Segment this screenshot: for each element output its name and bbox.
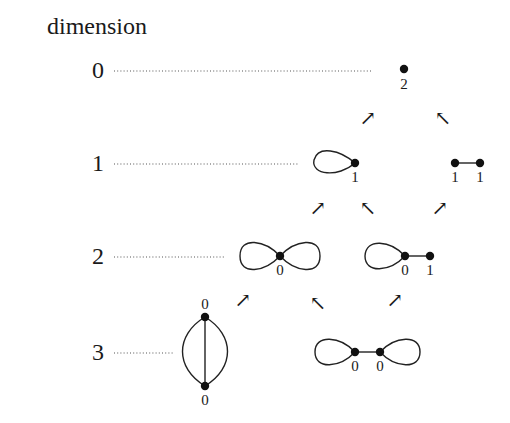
vertex-label: 2	[400, 76, 408, 92]
arrow-up-left-icon: ↖	[310, 292, 327, 314]
graph-single-edge: 1 1	[451, 159, 484, 185]
arc-edge	[205, 317, 228, 386]
row-dimension-3: 3	[92, 339, 173, 365]
vertex	[351, 348, 359, 356]
vertex	[276, 252, 284, 260]
graph-single-loop: 1	[314, 151, 359, 185]
loop-edge	[240, 242, 280, 269]
vertex	[201, 313, 209, 321]
vertex-label: 0	[276, 262, 284, 278]
arrow-up-right-icon: ↗	[310, 197, 327, 219]
vertex	[201, 382, 209, 390]
row-dimension-0: 0	[92, 57, 372, 83]
arrow-up-left-icon: ↖	[360, 197, 377, 219]
vertex-label: 0	[401, 262, 409, 278]
vertex	[376, 348, 384, 356]
loop-edge	[315, 339, 355, 365]
vertex-label: 0	[376, 358, 384, 374]
vertex	[426, 252, 434, 260]
loop-edge	[380, 339, 420, 365]
arrow-up-left-icon: ↖	[435, 107, 452, 129]
graph-figure-eight: 0	[240, 242, 320, 278]
loop-edge	[314, 151, 355, 173]
vertex-label: 0	[201, 392, 209, 408]
vertex-label: 1	[426, 262, 434, 278]
vertex-label: 1	[351, 169, 359, 185]
arrow-up-right-icon: ↗	[387, 289, 404, 311]
arc-edge	[183, 317, 206, 386]
loop-edge	[280, 242, 320, 269]
arrow-up-right-icon: ↗	[360, 107, 377, 129]
row-label: 1	[92, 150, 104, 176]
graph-dumbbell: 0 0	[315, 339, 420, 374]
dimension-stratification-diagram: dimension 0 1 2 3 2 ↗ ↖ 1 1 1 ↗ ↖ ↗	[0, 0, 510, 423]
vertex-label: 1	[451, 169, 459, 185]
graph-theta: 0 0	[183, 296, 228, 408]
vertex	[400, 65, 408, 73]
row-label: 0	[92, 57, 104, 83]
vertex	[451, 159, 459, 167]
graph-point: 2	[400, 65, 408, 92]
vertex	[351, 159, 359, 167]
vertex-label: 0	[201, 296, 209, 312]
row-label: 3	[92, 339, 104, 365]
arrow-up-right-icon: ↗	[432, 197, 449, 219]
loop-edge	[365, 243, 405, 269]
vertex-label: 1	[476, 169, 484, 185]
row-dimension-2: 2	[92, 243, 224, 269]
graph-loop-with-edge: 0 1	[365, 243, 434, 278]
row-label: 2	[92, 243, 104, 269]
vertex	[476, 159, 484, 167]
arrow-up-right-icon: ↗	[235, 289, 252, 311]
axis-title: dimension	[47, 13, 147, 39]
vertex-label: 0	[351, 358, 359, 374]
row-dimension-1: 1	[92, 150, 298, 176]
vertex	[401, 252, 409, 260]
